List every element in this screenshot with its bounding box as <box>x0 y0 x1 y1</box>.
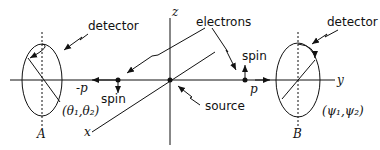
label-y-axis: y <box>336 73 344 87</box>
leader-detector-right <box>312 30 338 44</box>
label-spin-right: spin <box>242 49 267 63</box>
leader-electrons-right <box>212 28 236 70</box>
leader-detector-left <box>64 34 88 50</box>
label-x-axis: x <box>84 125 91 139</box>
label-detector-left: detector <box>88 19 139 33</box>
label-momentum-right: p <box>250 82 258 96</box>
source-dot <box>168 78 173 83</box>
label-source: source <box>205 99 245 113</box>
label-electrons: electrons <box>196 15 251 29</box>
leader-source <box>178 86 200 105</box>
label-angles-left: (θ₁,θ₂) <box>62 104 100 118</box>
label-z-axis: z <box>171 5 179 19</box>
label-momentum-left: -p <box>76 81 88 95</box>
label-a: A <box>36 127 46 141</box>
label-spin-left: spin <box>101 92 126 106</box>
label-b: B <box>292 127 302 141</box>
epr-diagram: detector detector electrons source spin … <box>0 0 380 150</box>
label-angles-right: (ψ₁,ψ₂) <box>322 104 364 118</box>
label-detector-right: detector <box>327 15 378 29</box>
